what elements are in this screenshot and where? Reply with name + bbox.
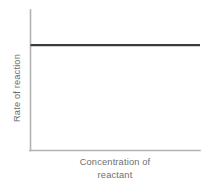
chart-figure: Rate of reaction Concentration of reacta… (0, 0, 209, 187)
x-axis-label-line-1: Concentration of (30, 156, 200, 169)
x-axis-label-line-2: reactant (30, 169, 200, 182)
x-axis-label: Concentration of reactant (30, 156, 200, 182)
